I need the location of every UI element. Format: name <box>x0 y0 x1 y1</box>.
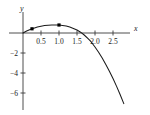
parabola-plot: 0.51.01.52.02.5 −2−4−6 x y <box>0 0 150 115</box>
x-axis-label: x <box>133 24 138 33</box>
y-axis-label: y <box>19 4 24 13</box>
x-tick-label: 0.5 <box>36 37 46 46</box>
chart-figure: 0.51.01.52.02.5 −2−4−6 x y <box>0 0 150 115</box>
x-tick-label: 2.5 <box>108 37 118 46</box>
y-tick-label: −6 <box>10 89 18 98</box>
x-tick-label: 1.5 <box>72 37 82 46</box>
data-point-marker <box>57 23 60 26</box>
data-point-marker <box>30 27 33 30</box>
y-tick-label: −2 <box>10 49 18 58</box>
x-tick-label: 2.0 <box>90 37 100 46</box>
x-tick-label: 1.0 <box>54 37 64 46</box>
y-tick-label: −4 <box>10 69 18 78</box>
